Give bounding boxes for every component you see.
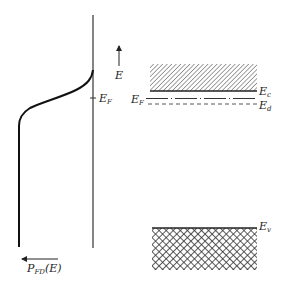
valence-band-hatch — [152, 228, 257, 270]
fermi-level-label-left: EF — [99, 93, 112, 106]
valence-band-label: Ev — [259, 221, 271, 234]
fermi-dirac-curve — [19, 70, 93, 247]
energy-axis-label: E — [115, 70, 123, 81]
band-diagram — [0, 0, 283, 287]
donor-level-label: Ed — [259, 100, 272, 113]
fermi-level-label-right: EF — [131, 94, 144, 107]
conduction-band-label: Ec — [259, 86, 271, 99]
probability-axis-label: PFD(E) — [27, 263, 62, 276]
conduction-band-hatch — [150, 64, 257, 91]
